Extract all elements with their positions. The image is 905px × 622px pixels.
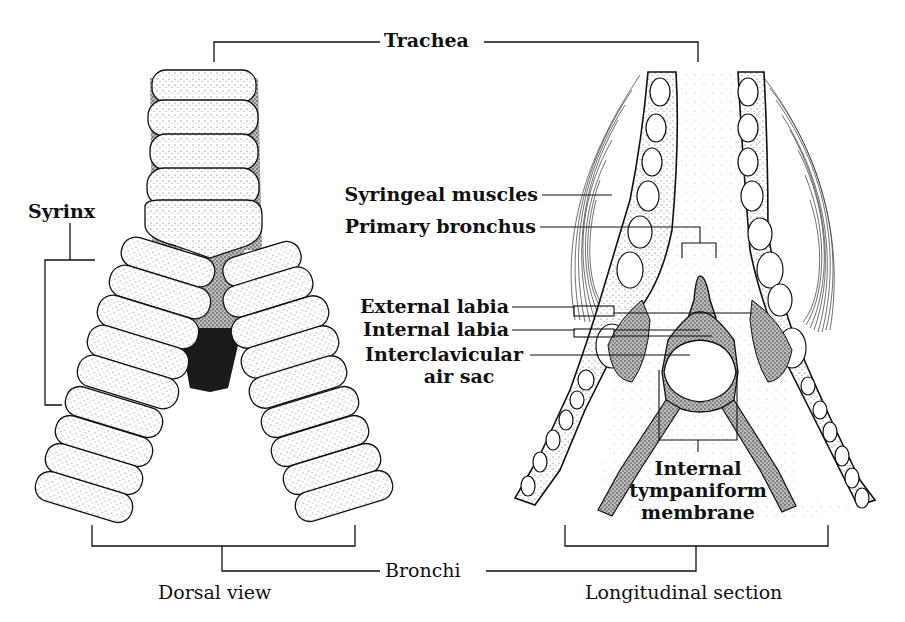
label-interclavicular-line2: air sac <box>358 366 530 387</box>
label-internal-labia: Internal labia <box>340 319 509 340</box>
longitudinal-section-drawing <box>515 70 880 520</box>
label-itm-line3: membrane <box>618 502 778 523</box>
label-primary-bronchus: Primary bronchus <box>340 216 536 237</box>
label-syringeal-muscles: Syringeal muscles <box>340 184 538 205</box>
label-trachea: Trachea <box>384 30 469 51</box>
label-bronchi: Bronchi <box>385 560 461 581</box>
caption-dorsal-view: Dorsal view <box>158 582 271 603</box>
label-itm-line1: Internal <box>618 458 778 479</box>
label-external-labia: External labia <box>340 296 509 317</box>
caption-longitudinal-section: Longitudinal section <box>585 582 782 603</box>
label-interclavicular-line1: Interclavicular <box>358 344 530 365</box>
label-itm-line2: tympaniform <box>618 480 778 501</box>
label-syrinx: Syrinx <box>28 201 95 222</box>
